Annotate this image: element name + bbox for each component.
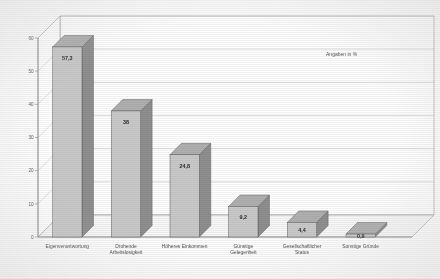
y-tick-label: 40: [28, 102, 34, 107]
bar-chart-3d: 010203040506057,33824,89,24,40,9Eigenver…: [0, 0, 440, 279]
bar-side-face: [199, 143, 210, 237]
category-label: Status: [295, 250, 309, 255]
y-tick-label: 20: [28, 168, 34, 173]
y-tick-label: 50: [28, 69, 34, 74]
bar[interactable]: [229, 195, 270, 237]
bar-front-face: [229, 206, 258, 237]
y-tick-label: 30: [28, 135, 34, 140]
chart-annotation: Angaben in %: [326, 51, 358, 57]
bar-front-face: [111, 111, 140, 237]
bar[interactable]: [111, 100, 152, 237]
bar-value-label: 24,8: [179, 163, 190, 169]
category-label: Arbeitslosigkeit: [110, 250, 144, 255]
bar[interactable]: [53, 36, 94, 237]
bar[interactable]: [170, 143, 211, 237]
bar-value-label: 4,4: [298, 227, 306, 233]
bar-value-label: 9,2: [240, 214, 248, 220]
category-label: Günstige: [234, 244, 254, 249]
category-label: Höheres Einkommen: [162, 244, 208, 249]
category-label: Sonstige Gründe: [342, 244, 379, 249]
bar-value-label: 38: [123, 119, 129, 125]
y-tick-label: 0: [31, 235, 34, 240]
category-label: Gelegenheit: [230, 250, 257, 255]
category-labels: EigenverantwortungDrohendeArbeitslosigke…: [46, 244, 380, 255]
y-axis-ticks: 0102030405060: [28, 36, 38, 240]
category-label: Drohende: [115, 244, 137, 249]
chart-canvas: 010203040506057,33824,89,24,40,9Eigenver…: [0, 0, 440, 279]
y-tick-label: 10: [28, 202, 34, 207]
bar-value-label: 0,9: [357, 233, 365, 239]
category-label: Eigenverantwortung: [46, 244, 90, 249]
bar-side-face: [141, 100, 152, 237]
bar-value-label: 57,3: [62, 55, 73, 61]
y-tick-label: 60: [28, 36, 34, 41]
category-label: Gesellschaftlicher: [283, 244, 322, 249]
bar-front-face: [53, 47, 82, 237]
bar-side-face: [82, 36, 93, 237]
